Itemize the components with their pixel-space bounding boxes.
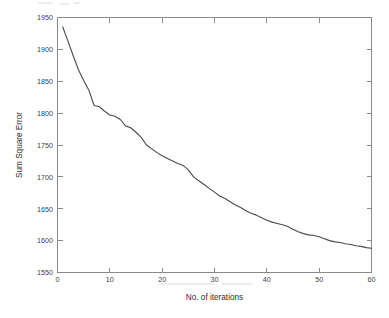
- y-tick-label: 1750: [37, 141, 53, 150]
- x-axis-title: No. of iterations: [186, 293, 243, 302]
- x-tick-label: 0: [56, 275, 60, 284]
- y-axis-title: Sum Square Error: [15, 112, 24, 178]
- y-axis-ticks: [58, 18, 372, 273]
- x-tick-label: 30: [211, 275, 219, 284]
- x-tick-label: 50: [315, 275, 323, 284]
- y-tick-label: 1900: [37, 45, 53, 54]
- y-tick-label: 1950: [37, 13, 53, 22]
- error-curve-line: [63, 27, 372, 248]
- line-chart: 1950 1900 1850 1800 1750 1700 1650 1600 …: [0, 0, 389, 318]
- figure-container: 1950 1900 1850 1800 1750 1700 1650 1600 …: [0, 0, 389, 318]
- x-tick-label: 60: [368, 275, 376, 284]
- x-axis-tick-labels: 0 10 20 30 40 50 60: [56, 275, 376, 284]
- axes-frame: [58, 18, 372, 273]
- y-axis-tick-labels: 1950 1900 1850 1800 1750 1700 1650 1600 …: [37, 13, 53, 277]
- y-tick-label: 1600: [37, 236, 53, 245]
- x-tick-label: 20: [158, 275, 166, 284]
- y-tick-label: 1550: [37, 268, 53, 277]
- y-tick-label: 1850: [37, 77, 53, 86]
- x-axis-ticks: [58, 18, 372, 273]
- y-tick-label: 1700: [37, 173, 53, 182]
- y-tick-label: 1650: [37, 205, 53, 214]
- x-tick-label: 40: [263, 275, 271, 284]
- y-tick-label: 1800: [37, 109, 53, 118]
- x-tick-label: 10: [106, 275, 114, 284]
